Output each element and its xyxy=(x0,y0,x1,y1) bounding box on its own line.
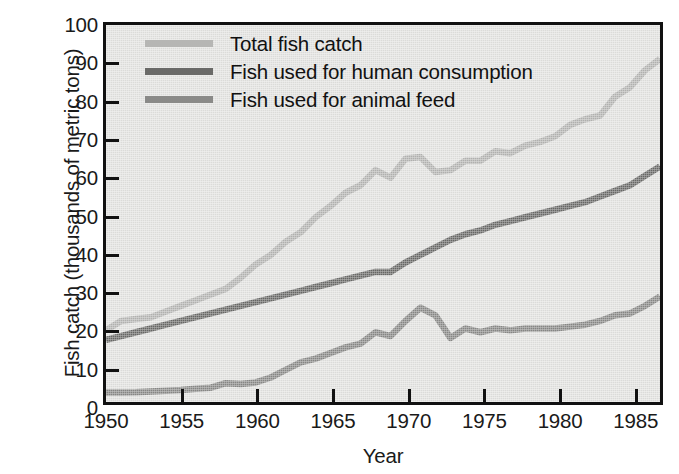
y-tick-mark xyxy=(106,369,119,372)
y-tick-label: 50 xyxy=(52,207,98,228)
y-tick-mark xyxy=(106,216,119,219)
y-tick-mark xyxy=(106,62,119,65)
x-tick-label: 1965 xyxy=(293,411,373,432)
y-axis-tick-labels: 0102030405060708090100 xyxy=(42,0,98,474)
x-tick-label: 1975 xyxy=(444,411,524,432)
y-tick-label: 60 xyxy=(52,168,98,189)
y-tick-mark xyxy=(106,254,119,257)
y-tick-label: 80 xyxy=(52,92,98,113)
x-tick-mark xyxy=(256,389,259,402)
x-tick-label: 1955 xyxy=(142,411,222,432)
legend-item[interactable]: Fish used for animal feed xyxy=(145,86,533,113)
x-tick-label: 1980 xyxy=(520,411,600,432)
chart-legend: Total fish catchFish used for human cons… xyxy=(145,30,533,114)
x-tick-mark xyxy=(635,389,638,402)
legend-label: Fish used for human consumption xyxy=(230,60,533,84)
x-tick-mark xyxy=(332,389,335,402)
x-tick-mark xyxy=(483,389,486,402)
legend-label: Total fish catch xyxy=(230,32,362,56)
legend-swatch xyxy=(145,68,213,75)
x-axis-title: Year xyxy=(103,444,663,468)
x-tick-label: 1960 xyxy=(217,411,297,432)
x-tick-label: 1950 xyxy=(66,411,146,432)
y-tick-mark xyxy=(106,330,119,333)
x-tick-mark xyxy=(408,389,411,402)
y-tick-label: 100 xyxy=(52,15,98,36)
series-line xyxy=(106,166,660,339)
y-tick-mark xyxy=(106,177,119,180)
legend-item[interactable]: Total fish catch xyxy=(145,30,533,57)
fish-catch-chart-figure: Fish catch (thousands of metric tons) 01… xyxy=(0,0,679,474)
legend-label: Fish used for animal feed xyxy=(230,88,455,112)
x-tick-label: 1985 xyxy=(596,411,676,432)
series-line xyxy=(106,296,660,392)
y-tick-label: 40 xyxy=(52,245,98,266)
x-tick-mark xyxy=(181,389,184,402)
y-tick-label: 30 xyxy=(52,283,98,304)
legend-item[interactable]: Fish used for human consumption xyxy=(145,58,533,85)
x-tick-label: 1970 xyxy=(369,411,449,432)
legend-swatch xyxy=(145,96,213,103)
y-tick-mark xyxy=(106,292,119,295)
y-tick-mark xyxy=(106,101,119,104)
y-tick-label: 90 xyxy=(52,53,98,74)
y-tick-mark xyxy=(106,139,119,142)
y-tick-label: 20 xyxy=(52,321,98,342)
legend-swatch xyxy=(145,40,213,47)
y-tick-label: 70 xyxy=(52,130,98,151)
x-axis-tick-labels: 19501955196019651970197519801985 xyxy=(0,411,679,441)
x-tick-mark xyxy=(559,389,562,402)
y-tick-label: 10 xyxy=(52,360,98,381)
